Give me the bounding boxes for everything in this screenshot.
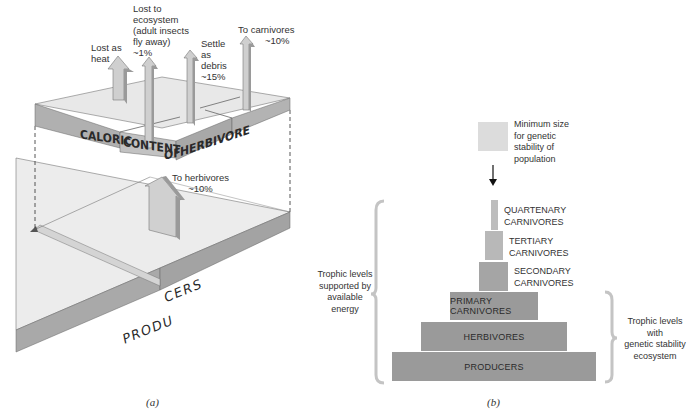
label-line: Minimum size (514, 119, 569, 131)
label-line: ~15% (201, 71, 227, 82)
label-line: CARNIVORES (509, 248, 569, 260)
level-herbivores: HERBIVORES (421, 322, 567, 351)
label-line: stability of (514, 142, 569, 154)
level-label: PRODUCERS (464, 362, 523, 372)
label-line: TERTIARY (509, 236, 569, 248)
label-quartenary: QUARTENARY CARNIVORES (504, 205, 566, 228)
caption-b: (b) (487, 396, 500, 408)
label-tertiary: TERTIARY CARNIVORES (509, 236, 569, 259)
label-line: energy (315, 304, 375, 316)
label-line: SECONDARY (514, 266, 574, 278)
label-line: ~10% (172, 183, 229, 194)
label-line: Trophic levels (620, 316, 690, 328)
caption-a: (a) (146, 396, 159, 408)
label-line: available (315, 292, 375, 304)
arrow-label-ecosystem: Lost to ecosystem (adult insects fly awa… (133, 3, 189, 58)
label-line: QUARTENARY (504, 205, 566, 217)
label-line: population (514, 154, 569, 166)
min-size-label: Minimum size for genetic stability of po… (514, 119, 569, 165)
level-tertiary (485, 231, 503, 260)
arrow-label-debris: Settle as debris ~15% (201, 38, 227, 82)
label-line: Settle (201, 38, 227, 49)
level-primary-carnivores: PRIMARY CARNIVORES (450, 292, 538, 320)
label-secondary: SECONDARY CARNIVORES (514, 266, 574, 289)
label-line: for genetic (514, 131, 569, 143)
label-line: with (620, 328, 690, 340)
level-label: PRIMARY CARNIVORES (450, 296, 538, 316)
arrow-label-herbivores: To herbivores ~10% (172, 172, 229, 194)
label-line: To herbivores (172, 172, 229, 183)
label-line: fly away) (133, 36, 189, 47)
arrow-label-carnivores: To carnivores ~10% (238, 24, 295, 46)
label-line: CARNIVORES (504, 217, 566, 229)
level-label: HERBIVORES (463, 332, 524, 342)
min-size-box (478, 122, 508, 151)
label-line: ecosystem (133, 14, 189, 25)
level-quartenary (491, 200, 498, 230)
label-line: ecosystem (620, 351, 690, 363)
label-line: heat (91, 53, 122, 64)
label-line: ~1% (133, 47, 189, 58)
label-line: Lost as (91, 42, 122, 53)
label-line: Lost to (133, 3, 189, 14)
label-line: To carnivores (238, 24, 295, 35)
label-line: CARNIVORES (514, 278, 574, 290)
label-line: ~10% (238, 35, 295, 46)
label-line: debris (201, 60, 227, 71)
right-brace-label: Trophic levels with genetic stability ec… (620, 316, 690, 362)
left-brace-label: Trophic levels supported by available en… (315, 269, 375, 315)
label-line: as (201, 49, 227, 60)
arrow-label-heat: Lost as heat (91, 42, 122, 64)
level-producers: PRODUCERS (392, 352, 596, 381)
label-line: (adult insects (133, 25, 189, 36)
level-secondary (479, 262, 508, 291)
label-line: Trophic levels (315, 269, 375, 281)
label-line: genetic stability (620, 339, 690, 351)
label-line: supported by (315, 281, 375, 293)
